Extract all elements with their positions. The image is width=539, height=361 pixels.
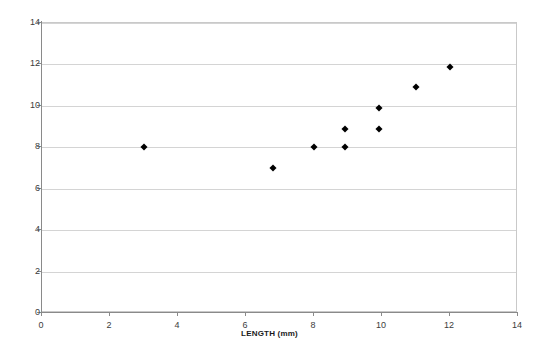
y-tick-label: 0 bbox=[35, 307, 40, 317]
x-tick-6 bbox=[245, 312, 246, 316]
y-tick-label: 8 bbox=[35, 141, 40, 151]
scatter-chart: 02468101214 02468101214 LENGTH (mm) bbox=[0, 0, 539, 361]
data-point bbox=[412, 84, 419, 91]
x-tick-12 bbox=[449, 312, 450, 316]
gridline-y-8 bbox=[42, 147, 516, 148]
x-axis-title: LENGTH (mm) bbox=[0, 329, 539, 338]
data-point bbox=[310, 144, 317, 151]
y-axis-line bbox=[41, 21, 42, 313]
gridline-y-14 bbox=[42, 23, 516, 24]
gridline-y-12 bbox=[42, 64, 516, 65]
y-axis-title bbox=[6, 140, 16, 198]
gridline-y-2 bbox=[42, 272, 516, 273]
gridline-y-6 bbox=[42, 189, 516, 190]
y-tick-label: 14 bbox=[30, 17, 40, 27]
x-tick-14 bbox=[517, 312, 518, 316]
data-point bbox=[140, 144, 147, 151]
y-tick-label: 2 bbox=[35, 266, 40, 276]
x-tick-10 bbox=[381, 312, 382, 316]
x-axis-line bbox=[41, 312, 518, 313]
y-tick-label: 12 bbox=[30, 58, 40, 68]
x-tick-0 bbox=[41, 312, 42, 316]
gridline-y-4 bbox=[42, 230, 516, 231]
data-point bbox=[375, 125, 382, 132]
x-tick-8 bbox=[313, 312, 314, 316]
x-tick-4 bbox=[177, 312, 178, 316]
y-tick-label: 4 bbox=[35, 224, 40, 234]
gridline-y-10 bbox=[42, 106, 516, 107]
data-point bbox=[270, 164, 277, 171]
x-tick-2 bbox=[109, 312, 110, 316]
y-tick-label: 10 bbox=[30, 100, 40, 110]
plot-area bbox=[41, 22, 517, 312]
data-point bbox=[341, 144, 348, 151]
y-tick-label: 6 bbox=[35, 183, 40, 193]
data-point bbox=[341, 125, 348, 132]
